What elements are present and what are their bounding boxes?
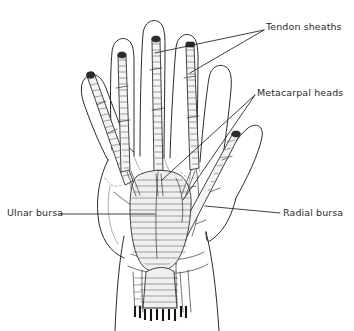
wrist-cut-surface xyxy=(133,268,191,322)
sheath-middle-finger xyxy=(149,36,170,174)
ulnar-bursa-structure xyxy=(127,170,195,272)
label-ulnar-bursa: Ulnar bursa xyxy=(7,208,63,218)
hand-diagram-svg xyxy=(0,0,354,331)
leader-tendon-sheaths-1 xyxy=(155,30,264,53)
label-radial-bursa: Radial bursa xyxy=(283,208,343,218)
label-tendon-sheaths: Tendon sheaths xyxy=(266,22,342,32)
leader-radial-bursa xyxy=(205,206,280,213)
leader-metacarpal-heads-1 xyxy=(162,95,255,180)
leader-tendon-sheaths-2 xyxy=(190,30,264,73)
anatomical-figure: Tendon sheaths Metacarpal heads Ulnar bu… xyxy=(0,0,354,331)
label-metacarpal-heads: Metacarpal heads xyxy=(257,88,343,98)
